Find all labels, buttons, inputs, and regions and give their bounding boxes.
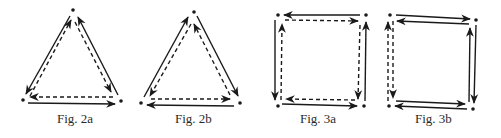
- vertex-dot: [192, 10, 196, 14]
- caption-fig-2b: Fig. 2b: [175, 111, 212, 127]
- fig-2b-diagram: [139, 10, 242, 106]
- caption-fig-2a: Fig. 2a: [57, 111, 93, 127]
- solid-arrow: [469, 28, 470, 102]
- dashed-arrow: [30, 20, 71, 96]
- solid-arrow: [474, 25, 476, 103]
- dashed-arrow: [358, 25, 360, 99]
- vertex-dot: [119, 99, 123, 103]
- dashed-arrow: [281, 24, 282, 100]
- vertex-dot: [387, 104, 391, 108]
- solid-arrow: [397, 21, 469, 24]
- fig-2a-diagram: [21, 8, 123, 104]
- dashed-arrow: [194, 24, 230, 95]
- solid-arrow: [28, 103, 115, 104]
- vertex-dot: [362, 104, 366, 108]
- vertex-dot: [474, 18, 478, 22]
- vertex-dot: [139, 101, 143, 105]
- solid-arrow: [78, 17, 118, 95]
- vertex-dot: [471, 107, 475, 111]
- solid-arrow: [365, 22, 366, 101]
- caption-fig-3b: Fig. 3b: [415, 111, 452, 127]
- solid-arrow: [26, 16, 70, 94]
- vertex-dot: [276, 13, 280, 17]
- vertex-dot: [388, 13, 392, 17]
- fig-3a-diagram: [275, 13, 368, 108]
- vertex-dot: [21, 98, 25, 102]
- solid-arrow: [395, 106, 467, 109]
- solid-arrow: [282, 104, 357, 106]
- solid-arrow: [197, 16, 238, 96]
- dashed-arrow: [150, 24, 191, 96]
- caption-fig-3a: Fig. 3a: [300, 111, 336, 127]
- solid-arrow: [396, 15, 470, 19]
- vertex-dot: [71, 8, 75, 12]
- dashed-arrow: [286, 99, 355, 100]
- vertex-dot: [364, 13, 368, 17]
- vertex-dot: [276, 104, 280, 108]
- solid-arrow: [396, 101, 465, 104]
- vertex-dot: [238, 101, 242, 105]
- dashed-arrow: [75, 22, 111, 92]
- dashed-arrow: [285, 20, 358, 21]
- solid-arrow: [147, 105, 234, 106]
- solid-arrow: [144, 17, 188, 97]
- fig-3b-diagram: [387, 13, 478, 111]
